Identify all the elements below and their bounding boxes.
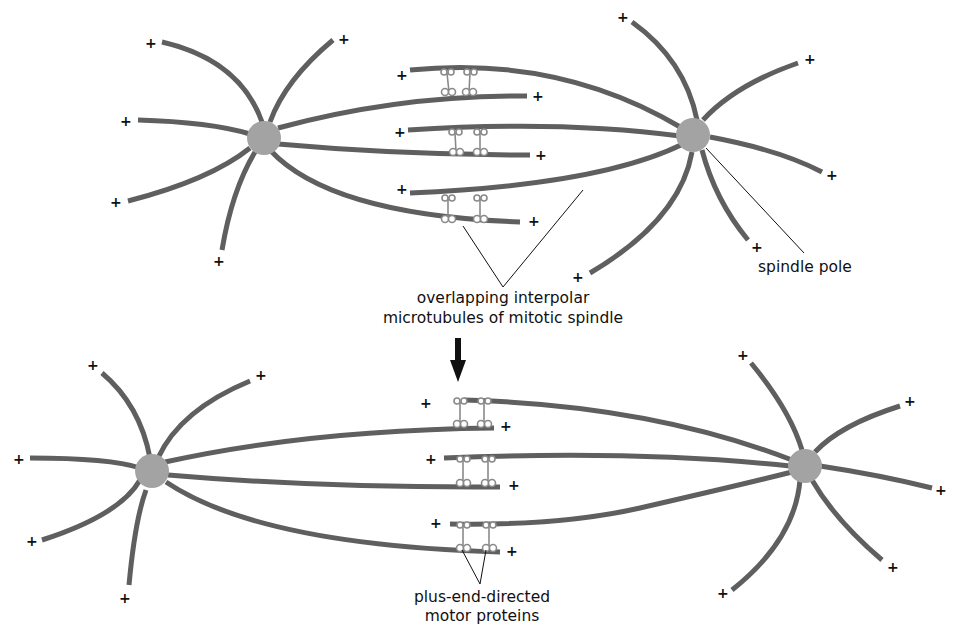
svg-text:+: + bbox=[120, 113, 132, 129]
svg-text:+: + bbox=[737, 347, 749, 363]
motor-protein bbox=[457, 456, 496, 487]
svg-text:+: + bbox=[430, 515, 442, 531]
svg-text:+: + bbox=[87, 357, 99, 373]
svg-text:+: + bbox=[935, 482, 947, 498]
svg-text:+: + bbox=[338, 31, 350, 47]
svg-text:+: + bbox=[804, 51, 816, 67]
svg-text:+: + bbox=[751, 239, 763, 255]
right-pole-astral-microtubules-bottom bbox=[732, 363, 932, 590]
svg-text:+: + bbox=[904, 393, 916, 409]
motor-protein-label-line1: plus-end-directed bbox=[414, 588, 550, 606]
svg-text:+: + bbox=[617, 9, 629, 25]
svg-text:+: + bbox=[396, 67, 408, 83]
spindle-pole-label: spindle pole bbox=[758, 258, 852, 276]
right-pole-interpolar-microtubules-bottom bbox=[444, 400, 792, 524]
svg-text:+: + bbox=[535, 147, 547, 163]
svg-text:+: + bbox=[572, 269, 584, 285]
svg-text:+: + bbox=[887, 559, 899, 575]
svg-text:+: + bbox=[500, 418, 512, 434]
down-arrow-icon bbox=[450, 338, 466, 382]
bottom-panel: + + + + + + + + + + + + + + + + plus-end… bbox=[13, 347, 947, 625]
svg-text:+: + bbox=[396, 181, 408, 197]
svg-text:+: + bbox=[508, 477, 520, 493]
left-spindle-pole-bottom bbox=[135, 454, 169, 488]
svg-text:+: + bbox=[255, 367, 267, 383]
svg-text:+: + bbox=[826, 167, 838, 183]
svg-text:+: + bbox=[425, 451, 437, 467]
svg-text:+: + bbox=[145, 35, 157, 51]
svg-text:+: + bbox=[717, 585, 729, 601]
svg-text:+: + bbox=[506, 543, 518, 559]
motor-protein-label-line2: motor proteins bbox=[425, 607, 540, 625]
interpolar-label-line2: microtubules of mitotic spindle bbox=[383, 309, 623, 327]
svg-text:+: + bbox=[13, 451, 25, 467]
interpolar-label-line1: overlapping interpolar bbox=[417, 289, 590, 307]
motor-protein bbox=[441, 69, 477, 96]
interpolar-leader-line bbox=[463, 190, 583, 287]
motor-protein bbox=[449, 129, 488, 156]
top-panel: + + + + + + + + + + + + + + + + spindle … bbox=[110, 9, 852, 327]
motor-protein-leader-line bbox=[462, 550, 486, 584]
svg-text:+: + bbox=[532, 88, 544, 104]
svg-text:+: + bbox=[110, 194, 122, 210]
motor-proteins-top bbox=[441, 69, 488, 223]
svg-text:+: + bbox=[119, 590, 131, 606]
plus-end-markers-top: + + + + + + + + + + + + + + + + bbox=[110, 9, 838, 285]
svg-text:+: + bbox=[26, 533, 38, 549]
svg-text:+: + bbox=[213, 253, 225, 269]
motor-proteins-bottom bbox=[454, 398, 497, 552]
left-pole-interpolar-microtubules-top bbox=[270, 96, 530, 222]
svg-text:+: + bbox=[394, 124, 406, 140]
right-spindle-pole-top bbox=[676, 118, 710, 152]
svg-text:+: + bbox=[528, 213, 540, 229]
left-spindle-pole-top bbox=[247, 121, 281, 155]
right-spindle-pole-bottom bbox=[788, 449, 822, 483]
left-pole-interpolar-microtubules-bottom bbox=[165, 428, 500, 552]
svg-text:+: + bbox=[420, 395, 432, 411]
mitotic-spindle-diagram: + + + + + + + + + + + + + + + + spindle … bbox=[0, 0, 960, 638]
